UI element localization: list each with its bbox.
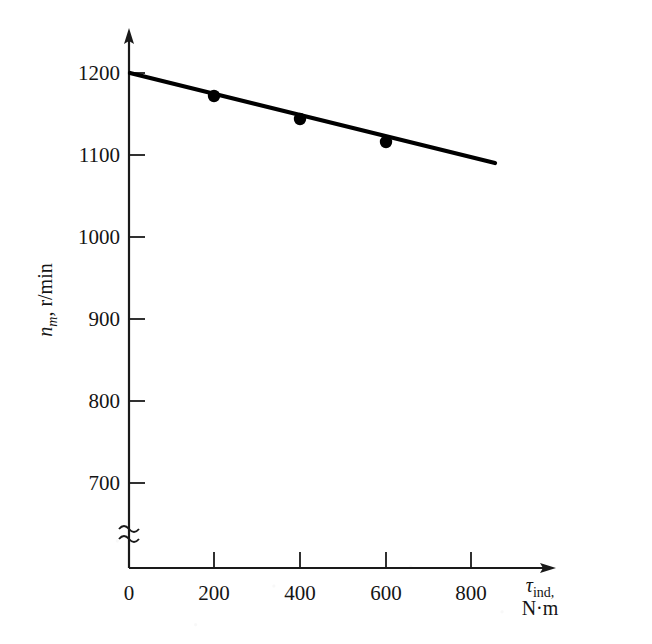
chart-figure: 1200 1100 1000 900 800 700 nm, r/min 0 (0, 0, 652, 644)
data-point-600 (380, 136, 392, 148)
y-axis-label: nm, r/min (34, 263, 60, 336)
data-point-400 (294, 113, 306, 125)
torque-speed-plot: 1200 1100 1000 900 800 700 nm, r/min 0 (0, 0, 652, 644)
y-ticklabel-1200: 1200 (78, 61, 120, 85)
data-series-group (130, 73, 495, 163)
x-axis-label: τind, N·m (522, 574, 559, 619)
x-axis-label-units: N·m (522, 597, 559, 619)
y-axis-label-units: , r/min (34, 263, 56, 316)
y-ticklabel-700: 700 (89, 471, 121, 495)
y-axis-label-subscript: m (45, 317, 60, 327)
x-ticklabel-800: 800 (455, 581, 487, 605)
y-ticklabel-1000: 1000 (78, 225, 120, 249)
x-ticklabel-600: 600 (370, 581, 402, 605)
y-ticklabel-1100: 1100 (79, 143, 120, 167)
y-axis-label-symbol: n (34, 327, 56, 337)
svg-text:nm, r/min: nm, r/min (34, 263, 60, 336)
torque-speed-line (130, 73, 495, 163)
y-ticklabel-900: 900 (89, 307, 121, 331)
x-ticklabel-0: 0 (124, 581, 135, 605)
x-ticklabel-200: 200 (198, 581, 230, 605)
x-ticklabel-400: 400 (284, 581, 316, 605)
x-axis-group: 0 200 400 600 800 τind, N·m (124, 552, 559, 619)
y-ticklabel-800: 800 (89, 389, 121, 413)
y-axis-group: 1200 1100 1000 900 800 700 nm, r/min (34, 28, 145, 568)
data-point-200 (208, 90, 220, 102)
